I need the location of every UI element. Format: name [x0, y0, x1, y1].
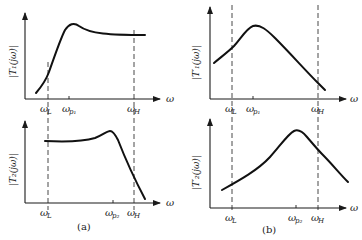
- tick-label-omega-L: ω L: [40, 103, 52, 116]
- panel-a: ω |T₁(jω)| ω L ω p₁ ω H ω |T₂(jω)|: [8, 13, 174, 232]
- tick-label-omega-H: ω H: [127, 103, 141, 116]
- svg-text:L: L: [46, 212, 52, 220]
- plot-a-bottom: ω |T₂(jω)| ω L ω p₂ ω H: [8, 121, 174, 220]
- frequency-response-diagram: ω |T₁(jω)| ω L ω p₁ ω H ω |T₂(jω)|: [0, 0, 362, 240]
- y-axis-label: |T₁(jω)|: [8, 45, 19, 78]
- x-axis-label: ω: [166, 197, 174, 208]
- tick-label-omega-L: ω L: [225, 103, 237, 116]
- tick-label-omega-L: ω L: [225, 212, 237, 225]
- T2-prime-magnitude-curve: [222, 130, 348, 190]
- panel-b: ω |T′₁(jω)| ω L ω p₁ ω H ω |T′₂(jω)|: [191, 5, 358, 235]
- svg-text:L: L: [231, 108, 237, 116]
- tick-label-omega-H: ω H: [311, 103, 325, 116]
- plot-a-top: ω |T₁(jω)| ω L ω p₁ ω H: [8, 13, 174, 116]
- panel-caption-b: (b): [262, 224, 276, 235]
- tick-label-omega-p2: ω p₂: [288, 212, 302, 225]
- T1-prime-magnitude-curve: [214, 26, 325, 90]
- svg-text:L: L: [46, 108, 52, 116]
- svg-text:L: L: [231, 217, 237, 225]
- svg-text:H: H: [133, 212, 141, 220]
- svg-text:H: H: [133, 108, 141, 116]
- y-axis-label: |T′₁(jω)|: [191, 45, 202, 80]
- x-axis-label: ω: [350, 202, 358, 213]
- tick-label-omega-p1: ω p₁: [246, 103, 260, 116]
- T2-magnitude-curve: [45, 131, 145, 199]
- T1-magnitude-curve: [36, 24, 145, 93]
- plot-b-bottom: ω |T′₂(jω)| ω L ω p₂ ω H: [191, 119, 358, 225]
- tick-label-omega-p1: ω p₁: [62, 103, 76, 116]
- svg-text:p₁: p₁: [253, 108, 260, 116]
- y-axis-label: |T′₂(jω)|: [191, 155, 202, 190]
- plot-b-top: ω |T′₁(jω)| ω L ω p₁ ω H: [191, 7, 358, 116]
- tick-label-omega-p2: ω p₂: [105, 207, 119, 220]
- svg-text:p₂: p₂: [112, 212, 119, 220]
- svg-text:p₂: p₂: [295, 217, 302, 225]
- tick-label-omega-L: ω L: [40, 207, 52, 220]
- svg-text:H: H: [317, 108, 325, 116]
- tick-label-omega-H: ω H: [127, 207, 141, 220]
- y-axis-label: |T₂(jω)|: [8, 153, 19, 186]
- x-axis-label: ω: [350, 93, 358, 104]
- svg-text:H: H: [317, 217, 325, 225]
- tick-label-omega-H: ω H: [311, 212, 325, 225]
- svg-text:p₁: p₁: [69, 108, 76, 116]
- panel-caption-a: (a): [77, 221, 91, 232]
- x-axis-label: ω: [166, 93, 174, 104]
